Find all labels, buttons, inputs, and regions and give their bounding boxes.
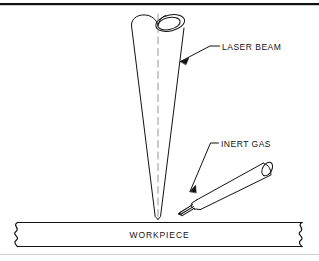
diagram-canvas: LASER BEAM INERT GAS WORKPIECE (0, 0, 319, 261)
bottom-border-rule (0, 254, 319, 255)
inert-gas-label: INERT GAS (221, 139, 271, 149)
nozzle-collar-bottom (195, 209, 201, 210)
laser-beam-label: LASER BEAM (222, 42, 281, 52)
top-border-rule (0, 3, 319, 5)
workpiece-label: WORKPIECE (129, 230, 189, 240)
laser-beam-welding-figure: LASER BEAM INERT GAS WORKPIECE (0, 0, 319, 261)
figure-background (0, 0, 319, 261)
